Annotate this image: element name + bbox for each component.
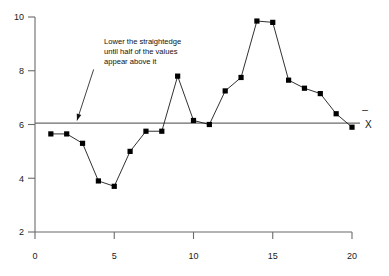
data-point <box>48 131 53 136</box>
data-point <box>286 78 291 83</box>
data-point <box>96 178 101 183</box>
y-tick-label: 2 <box>19 227 24 237</box>
annotation-line-3: appear above it <box>104 57 157 66</box>
arrow-shaft <box>77 69 94 120</box>
arrow-head <box>77 114 82 121</box>
x-tick-label: 10 <box>188 251 198 261</box>
data-point <box>318 91 323 96</box>
y-tick-label: 4 <box>19 174 24 184</box>
data-point <box>112 184 117 189</box>
mean-line-overbar: ̅ <box>362 110 368 111</box>
y-tick-label: 10 <box>14 12 24 22</box>
chart-container: 246810 05101520 Lower the straightedge u… <box>0 0 389 276</box>
annotation-line-1: Lower the straightedge <box>104 37 181 46</box>
x-axis-ticks: 05101520 <box>32 232 357 261</box>
data-point <box>254 18 259 23</box>
annotation-arrow <box>77 69 94 120</box>
data-point <box>238 75 243 80</box>
data-point <box>223 88 228 93</box>
series-line <box>51 21 352 186</box>
data-point <box>159 129 164 134</box>
series-markers <box>48 18 354 188</box>
x-tick-label: 15 <box>268 251 278 261</box>
data-point <box>349 125 354 130</box>
x-tick-label: 5 <box>112 251 117 261</box>
data-point <box>270 20 275 25</box>
data-point <box>80 141 85 146</box>
x-tick-label: 0 <box>32 251 37 261</box>
y-tick-label: 6 <box>19 120 24 130</box>
data-point <box>191 118 196 123</box>
x-tick-label: 20 <box>347 251 357 261</box>
data-point <box>143 129 148 134</box>
y-tick-label: 8 <box>19 66 24 76</box>
data-point <box>128 149 133 154</box>
data-point <box>207 122 212 127</box>
data-point <box>175 74 180 79</box>
data-point <box>334 111 339 116</box>
line-chart: 246810 05101520 Lower the straightedge u… <box>0 0 389 276</box>
y-axis-ticks: 246810 <box>14 12 35 237</box>
annotation-line-2: until half of the values <box>104 47 178 56</box>
data-point <box>302 86 307 91</box>
mean-line-label: X <box>365 119 372 130</box>
data-point <box>64 131 69 136</box>
